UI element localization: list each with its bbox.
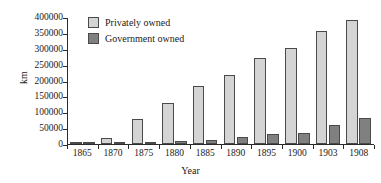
bar-privately-owned-1900 <box>285 48 297 144</box>
legend-item-government-owned: Government owned <box>88 32 184 45</box>
legend-swatch-government-owned <box>88 33 99 44</box>
y-tick-label: 100000 <box>15 108 63 118</box>
bar-government-owned-1870 <box>114 142 126 144</box>
y-tick-label: 0 <box>15 140 63 150</box>
y-tick <box>63 66 67 67</box>
bar-privately-owned-1885 <box>193 86 205 144</box>
y-tick-label: 150000 <box>15 92 63 102</box>
y-tick-label: 350000 <box>15 29 63 39</box>
bar-government-owned-1885 <box>206 140 218 144</box>
y-tick-label: 250000 <box>15 61 63 71</box>
chart-legend: Privately owned Government owned <box>88 16 184 48</box>
bar-privately-owned-1865 <box>70 142 82 144</box>
y-tick <box>63 50 67 51</box>
y-tick-label: 400000 <box>15 13 63 23</box>
y-tick-label: 200000 <box>15 77 63 87</box>
bar-privately-owned-1875 <box>132 119 144 144</box>
bar-government-owned-1895 <box>267 134 279 144</box>
bar-privately-owned-1870 <box>101 138 113 144</box>
bar-government-owned-1908 <box>359 118 371 144</box>
bar-government-owned-1880 <box>175 141 187 144</box>
y-tick <box>63 97 67 98</box>
y-tick-label: 300000 <box>15 45 63 55</box>
bar-government-owned-1890 <box>237 137 249 144</box>
bar-privately-owned-1890 <box>224 75 236 144</box>
bar-privately-owned-1880 <box>162 103 174 144</box>
bar-privately-owned-1895 <box>254 58 266 144</box>
legend-item-privately-owned: Privately owned <box>88 16 184 29</box>
y-axis-line <box>67 18 68 146</box>
y-tick <box>63 113 67 114</box>
bar-privately-owned-1908 <box>346 20 358 144</box>
bar-chart: km 0500001000001500002000002500003000003… <box>0 0 381 183</box>
y-tick <box>63 129 67 130</box>
y-tick <box>63 34 67 35</box>
legend-swatch-privately-owned <box>88 17 99 28</box>
y-tick <box>63 18 67 19</box>
y-tick <box>63 82 67 83</box>
y-tick-label: 50000 <box>15 124 63 134</box>
legend-label-privately-owned: Privately owned <box>105 18 170 28</box>
x-tick-label: 1908 <box>339 149 379 159</box>
bar-government-owned-1900 <box>298 133 310 144</box>
bar-privately-owned-1903 <box>316 31 328 144</box>
x-axis-title: Year <box>0 165 381 176</box>
bar-government-owned-1903 <box>329 125 341 144</box>
bar-government-owned-1875 <box>145 142 157 144</box>
legend-label-government-owned: Government owned <box>105 34 184 44</box>
bar-government-owned-1865 <box>83 142 95 144</box>
